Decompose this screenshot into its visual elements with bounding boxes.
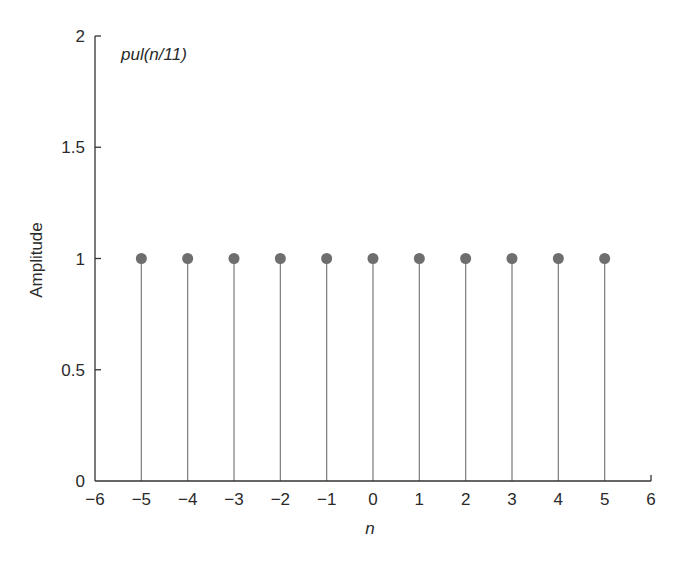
stem-point [599,253,610,481]
x-tick-label: −3 [224,490,243,509]
x-tick-label: 2 [461,490,470,509]
y-ticks [95,147,101,370]
stem-marker [368,253,379,264]
x-axis-label: n [365,519,374,538]
stem-point [368,253,379,481]
x-tick-label: 3 [507,490,516,509]
x-tick-label: 0 [368,490,377,509]
x-tick-label: 4 [554,490,563,509]
stem-point [321,253,332,481]
stem-point [229,253,240,481]
stem-point [136,253,147,481]
y-axis-label: Amplitude [27,222,46,298]
stem-plot: −6−5−4−3−2−10123456 00.511.52 pul(n/11) … [0,0,682,565]
stem-point [553,253,564,481]
stem-point [460,253,471,481]
stem-series [136,253,610,481]
stem-marker [136,253,147,264]
stem-marker [414,253,425,264]
stem-point [414,253,425,481]
x-tick-labels: −6−5−4−3−2−10123456 [85,490,655,509]
y-tick-label: 0 [76,472,85,491]
stem-marker [460,253,471,264]
x-tick-label: 6 [646,490,655,509]
y-tick-label: 1 [76,250,85,269]
y-tick-label: 1.5 [61,138,85,157]
y-tick-label: 0.5 [61,361,85,380]
x-tick-label: 5 [600,490,609,509]
y-tick-labels: 00.511.52 [61,27,85,491]
x-tick-label: −4 [178,490,197,509]
x-tick-label: −6 [85,490,104,509]
x-tick-label: 1 [415,490,424,509]
y-tick-label: 2 [76,27,85,46]
stem-point [275,253,286,481]
stem-marker [275,253,286,264]
stem-point [182,253,193,481]
annotation-label: pul(n/11) [120,45,187,64]
stem-marker [182,253,193,264]
x-tick-label: −5 [132,490,151,509]
stem-marker [321,253,332,264]
x-tick-label: −1 [317,490,336,509]
stem-marker [229,253,240,264]
stem-marker [599,253,610,264]
stem-point [507,253,518,481]
stem-marker [553,253,564,264]
x-tick-label: −2 [271,490,290,509]
stem-marker [507,253,518,264]
